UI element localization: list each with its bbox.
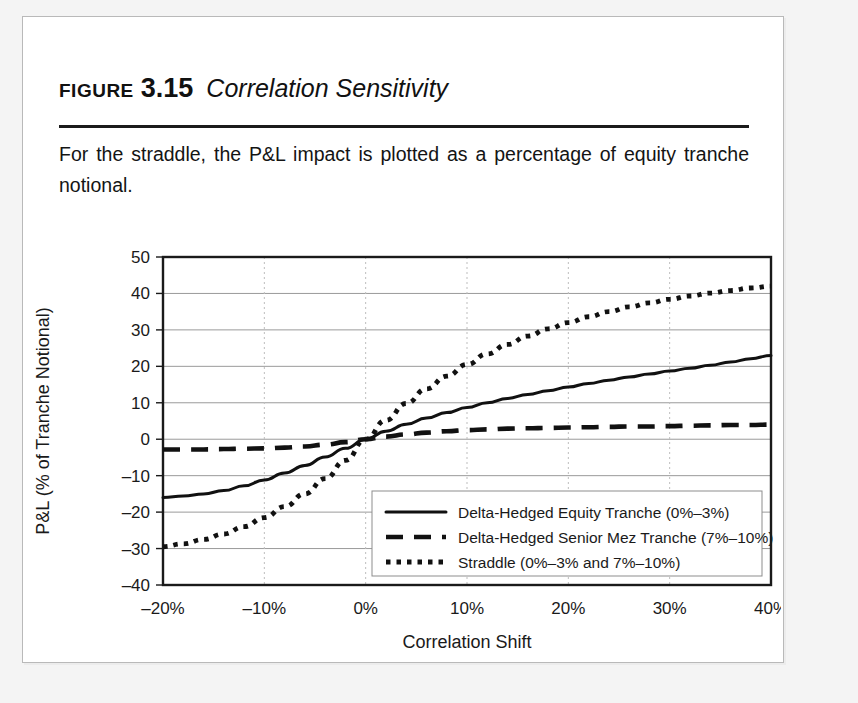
correlation-sensitivity-chart: –40–30–20–1001020304050 –20%–10%0%10%20%… [23, 205, 781, 660]
x-tick-label: 0% [353, 599, 378, 618]
y-tick-label: –30 [122, 540, 150, 559]
y-axis-title: P&L (% of Tranche Notional) [33, 307, 53, 534]
page-background: FIGURE3.15Correlation Sensitivity For th… [0, 0, 858, 703]
y-tick-label: 40 [131, 284, 150, 303]
y-tick-label: 0 [141, 430, 150, 449]
chart-legend: Delta-Hedged Equity Tranche (0%–3%)Delta… [372, 491, 773, 576]
x-axis-title: Correlation Shift [402, 632, 531, 652]
y-tick-label: 20 [131, 357, 150, 376]
figure-card: FIGURE3.15Correlation Sensitivity For th… [22, 16, 784, 663]
x-tick-label: –20% [141, 599, 184, 618]
y-tick-label: 50 [131, 248, 150, 267]
x-axis-tick-labels: –20%–10%0%10%20%30%40% [141, 599, 781, 618]
y-tick-label: 30 [131, 321, 150, 340]
x-tick-label: 40% [754, 599, 781, 618]
figure-header: FIGURE3.15Correlation Sensitivity [59, 73, 749, 104]
figure-title: Correlation Sensitivity [206, 74, 448, 102]
y-axis-tick-labels: –40–30–20–1001020304050 [122, 248, 150, 595]
y-tick-label: –40 [122, 576, 150, 595]
figure-caption: For the straddle, the P&L impact is plot… [59, 139, 749, 201]
legend-label-2: Delta-Hedged Senior Mez Tranche (7%–10%) [458, 529, 773, 546]
legend-label-1: Delta-Hedged Equity Tranche (0%–3%) [458, 504, 729, 521]
x-tick-label: –10% [243, 599, 286, 618]
figure-number: 3.15 [141, 73, 194, 103]
y-tick-label: 10 [131, 394, 150, 413]
x-tick-label: 10% [450, 599, 484, 618]
x-tick-label: 30% [653, 599, 687, 618]
header-divider [59, 125, 749, 128]
figure-label: FIGURE [59, 80, 134, 101]
chart-container: –40–30–20–1001020304050 –20%–10%0%10%20%… [23, 205, 781, 660]
x-tick-label: 20% [551, 599, 585, 618]
y-tick-label: –20 [122, 503, 150, 522]
y-tick-label: –10 [122, 467, 150, 486]
legend-label-3: Straddle (0%–3% and 7%–10%) [458, 554, 680, 571]
